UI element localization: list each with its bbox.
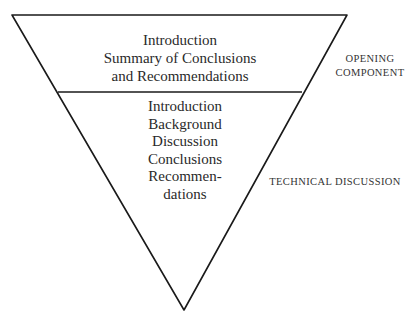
technical-line-5: Recommen-	[120, 168, 250, 186]
technical-line-3: Discussion	[120, 133, 250, 151]
opening-section-text: Introduction Summary of Conclusions and …	[80, 31, 280, 85]
technical-section-text: Introduction Background Discussion Concl…	[120, 98, 250, 203]
technical-line-1: Introduction	[120, 98, 250, 116]
technical-line-2: Background	[120, 116, 250, 134]
technical-line-6: dations	[120, 186, 250, 204]
technical-label-line-1: TECHNICAL DISCUSSION	[268, 175, 402, 189]
opening-component-label: OPENING COMPONENT	[332, 52, 408, 80]
opening-line-1: Introduction	[80, 31, 280, 49]
technical-discussion-label: TECHNICAL DISCUSSION	[268, 175, 402, 189]
technical-line-4: Conclusions	[120, 151, 250, 169]
opening-line-2: Summary of Conclusions	[80, 49, 280, 67]
inverted-pyramid-diagram: Introduction Summary of Conclusions and …	[0, 0, 408, 313]
opening-line-3: and Recommendations	[80, 67, 280, 85]
opening-label-line-2: COMPONENT	[332, 66, 408, 80]
opening-label-line-1: OPENING	[332, 52, 408, 66]
